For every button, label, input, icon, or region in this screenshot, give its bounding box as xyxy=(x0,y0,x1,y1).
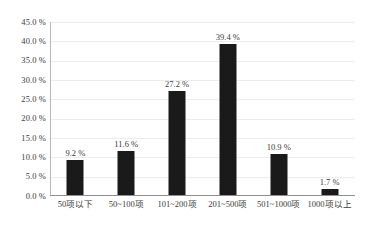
x-axis-labels: 50项以下50~100项101~200项201~500项501~1000项100… xyxy=(50,199,355,219)
y-axis-tick-label: 35.0 % xyxy=(2,56,46,65)
bar-value-label: 9.2 % xyxy=(65,149,85,158)
x-axis-tick-label: 1000项以上 xyxy=(299,199,361,210)
gridline xyxy=(50,196,355,197)
y-axis-tick-label: 10.0 % xyxy=(2,153,46,162)
y-axis-tick-label: 25.0 % xyxy=(2,95,46,104)
bar-value-label: 27.2 % xyxy=(165,80,189,89)
y-axis-tick-label: 30.0 % xyxy=(2,76,46,85)
bar xyxy=(169,91,186,196)
bar-slot: 1.7 % xyxy=(304,22,355,196)
bar-slot: 9.2 % xyxy=(50,22,101,196)
bar-slot: 39.4 % xyxy=(203,22,254,196)
bar-slot: 11.6 % xyxy=(101,22,152,196)
y-axis-tick-label: 0.0 % xyxy=(2,192,46,201)
bar xyxy=(67,160,84,196)
y-axis-tick-label: 15.0 % xyxy=(2,134,46,143)
y-axis-tick-label: 40.0 % xyxy=(2,37,46,46)
bar-value-label: 11.6 % xyxy=(114,140,138,149)
bar-slot: 27.2 % xyxy=(152,22,203,196)
bar-value-label: 1.7 % xyxy=(320,178,340,187)
bar-chart: 0.0 %5.0 %10.0 %15.0 %20.0 %25.0 %30.0 %… xyxy=(0,0,371,228)
x-axis-line xyxy=(50,195,355,196)
bar-value-label: 39.4 % xyxy=(216,33,240,42)
bar-slot: 10.9 % xyxy=(253,22,304,196)
y-axis-line xyxy=(50,22,51,196)
y-axis-tick-label: 5.0 % xyxy=(2,172,46,181)
plot-area: 9.2 %11.6 %27.2 %39.4 %10.9 %1.7 % xyxy=(50,22,355,196)
y-axis-tick-label: 20.0 % xyxy=(2,114,46,123)
bar xyxy=(118,151,135,196)
bar xyxy=(270,154,287,196)
y-axis-labels: 0.0 %5.0 %10.0 %15.0 %20.0 %25.0 %30.0 %… xyxy=(0,0,46,228)
y-axis-tick-label: 45.0 % xyxy=(2,18,46,27)
bar xyxy=(219,44,236,196)
bar-value-label: 10.9 % xyxy=(267,143,291,152)
